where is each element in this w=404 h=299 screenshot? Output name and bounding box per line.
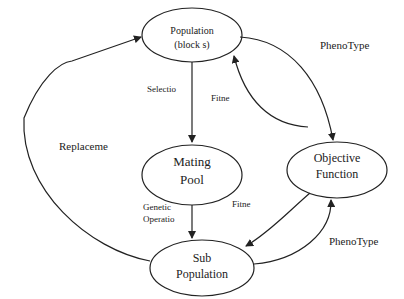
- selection-label: Selectio: [147, 85, 176, 94]
- mating-pool-label-line1: Mating: [142, 153, 242, 171]
- sub-population-label-line2: Population: [150, 266, 254, 282]
- genetic-operations-label-line2: Operatio: [143, 215, 175, 224]
- objective-function-label-line1: Objective: [287, 150, 387, 166]
- ga-flow-diagram: Population (block s) Mating Pool Objecti…: [0, 0, 404, 299]
- fitness-top-label: Fitne: [211, 94, 230, 103]
- sub-population-label-line1: Sub: [150, 250, 254, 266]
- mating-pool-label-line2: Pool: [142, 171, 242, 189]
- replacement-label: Replaceme: [59, 141, 108, 152]
- objective-function-node: Objective Function: [287, 150, 387, 182]
- mating-pool-node: Mating Pool: [142, 153, 242, 188]
- population-label-line2: (block s): [142, 38, 242, 52]
- population-node: Population (block s): [142, 24, 242, 51]
- population-label-line1: Population: [142, 24, 242, 38]
- sub-population-node: Sub Population: [150, 250, 254, 282]
- fitness-top-arrow: [234, 56, 308, 127]
- phenotype-bottom-label: PhenoType: [329, 236, 378, 247]
- fitness-bottom-arrow: [246, 193, 310, 246]
- objective-function-label-line2: Function: [287, 166, 387, 182]
- phenotype-top-label: PhenoType: [320, 40, 369, 51]
- fitness-bottom-label: Fitne: [232, 200, 251, 209]
- genetic-operations-label-line1: Genetic: [143, 203, 171, 212]
- phenotype-top-arrow: [240, 37, 333, 140]
